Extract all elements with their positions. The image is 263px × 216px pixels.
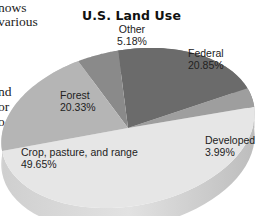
slice-label: Developed — [205, 134, 255, 146]
pie-chart: Crop, pasture, and range49.65%Forest20.3… — [0, 0, 263, 216]
slice-value-label: 5.18% — [117, 35, 147, 47]
slice-label: Crop, pasture, and range — [21, 146, 138, 158]
slice-value-label: 49.65% — [21, 158, 57, 170]
slice-label: Other — [119, 23, 146, 35]
slice-value-label: 3.99% — [205, 146, 235, 158]
slice-value-label: 20.85% — [188, 59, 224, 71]
slice-label: Federal — [188, 47, 224, 59]
slice-label: Forest — [60, 89, 90, 101]
slice-value-label: 20.33% — [60, 101, 96, 113]
